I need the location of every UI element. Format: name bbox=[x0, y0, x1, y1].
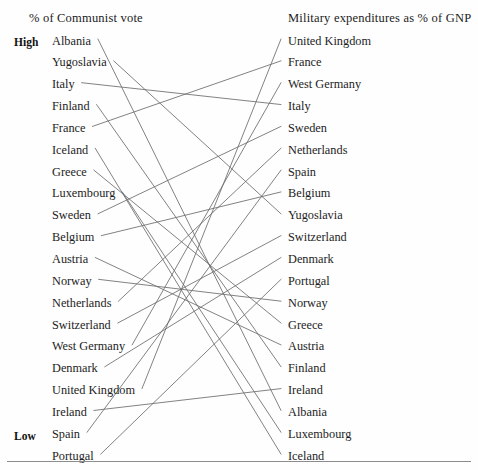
slope-line bbox=[98, 39, 281, 410]
slope-line bbox=[82, 83, 281, 105]
rank-label-right: Norway bbox=[288, 297, 328, 309]
axis-label-high: High bbox=[14, 36, 38, 48]
rank-label-right: Italy bbox=[288, 100, 311, 112]
rank-label-right: Ireland bbox=[288, 384, 323, 396]
slope-line bbox=[95, 258, 281, 345]
rank-label-right: Denmark bbox=[288, 253, 334, 265]
rank-label-left: Austria bbox=[52, 253, 88, 265]
bottom-rule bbox=[7, 461, 471, 462]
rank-label-left: Finland bbox=[52, 100, 90, 112]
rank-label-left: Norway bbox=[52, 275, 92, 287]
rank-label-right: Greece bbox=[288, 319, 323, 331]
rank-label-left: Denmark bbox=[52, 362, 98, 374]
rank-label-left: Switzerland bbox=[52, 319, 111, 331]
rank-label-right: Spain bbox=[288, 166, 316, 178]
slope-line bbox=[97, 105, 281, 367]
rank-label-right: West Germany bbox=[288, 78, 361, 90]
rank-label-right: Yugoslavia bbox=[288, 209, 343, 221]
slope-line bbox=[98, 126, 281, 213]
rank-label-right: Belgium bbox=[288, 187, 330, 199]
slope-line bbox=[132, 83, 281, 345]
rank-label-right: Finland bbox=[288, 362, 326, 374]
rank-label-left: Albania bbox=[52, 35, 91, 47]
rank-label-left: United Kingdom bbox=[52, 384, 135, 396]
slope-line bbox=[101, 279, 281, 454]
rank-label-left: Iceland bbox=[52, 144, 88, 156]
slope-line bbox=[95, 148, 281, 454]
slope-line bbox=[99, 279, 281, 301]
rank-label-right: Portugal bbox=[288, 275, 330, 287]
rank-label-right: United Kingdom bbox=[288, 35, 371, 47]
slope-line bbox=[105, 258, 281, 367]
axis-label-low: Low bbox=[14, 430, 36, 442]
slope-line bbox=[92, 61, 281, 127]
rank-label-left: Belgium bbox=[52, 231, 94, 243]
rank-label-left: Spain bbox=[52, 428, 80, 440]
right-column-header: Military expenditures as % of GNP bbox=[288, 11, 471, 26]
rank-label-left: France bbox=[52, 122, 85, 134]
rank-label-right: Netherlands bbox=[288, 144, 347, 156]
rank-label-right: Austria bbox=[288, 340, 324, 352]
rank-label-right: Sweden bbox=[288, 122, 327, 134]
rank-label-right: Luxembourg bbox=[288, 428, 351, 440]
rank-label-right: Albania bbox=[288, 406, 327, 418]
rank-label-right: Switzerland bbox=[288, 231, 347, 243]
slopegraph-figure: % of Communist vote Military expenditure… bbox=[0, 0, 478, 470]
slope-line bbox=[94, 170, 281, 323]
rank-label-left: West Germany bbox=[52, 340, 125, 352]
slope-line bbox=[118, 148, 281, 301]
slope-line bbox=[114, 61, 281, 214]
rank-label-left: Netherlands bbox=[52, 297, 111, 309]
rank-label-left: Yugoslavia bbox=[52, 56, 107, 68]
rank-label-left: Ireland bbox=[52, 406, 87, 418]
slope-line bbox=[142, 39, 281, 389]
slope-line bbox=[122, 192, 281, 432]
slope-line bbox=[118, 236, 281, 323]
rank-label-left: Greece bbox=[52, 166, 87, 178]
rank-label-left: Italy bbox=[52, 78, 75, 90]
rank-label-left: Luxembourg bbox=[52, 187, 115, 199]
slope-line bbox=[101, 192, 281, 236]
left-column-header: % of Communist vote bbox=[29, 11, 143, 26]
rank-label-left: Sweden bbox=[52, 209, 91, 221]
rank-label-right: France bbox=[288, 56, 321, 68]
